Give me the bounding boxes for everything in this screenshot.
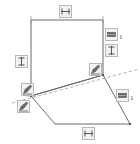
badge-sketch-edit-mid-left[interactable] — [21, 83, 35, 96]
extrude-icon[interactable] — [116, 89, 129, 102]
vertex-point-lower-right[interactable] — [129, 123, 131, 125]
horizontal-dimension-icon[interactable] — [59, 5, 72, 18]
badge-subscript: 1 — [119, 34, 123, 41]
cad-sketch-canvas[interactable]: 1 — [0, 0, 140, 144]
badge-extrude-right-1[interactable]: 1 — [105, 28, 123, 41]
badge-horizontal-dimension-top[interactable] — [59, 5, 73, 18]
vertical-dimension-icon[interactable] — [15, 55, 28, 68]
badge-sketch-edit-lower-left[interactable] — [17, 100, 31, 113]
badge-vertical-dimension-left[interactable] — [15, 55, 29, 68]
pencil-edit-icon[interactable] — [89, 63, 102, 76]
horizontal-dimension-icon[interactable] — [82, 127, 95, 140]
vertical-dimension-icon[interactable] — [105, 44, 118, 57]
badge-extrude-lower-right-1[interactable]: 1 — [116, 89, 134, 102]
vertical-rectangle-face[interactable] — [31, 20, 103, 96]
badge-horizontal-dimension-bottom[interactable] — [82, 127, 96, 140]
extrude-icon[interactable] — [105, 28, 118, 41]
pencil-edit-icon[interactable] — [17, 100, 30, 113]
pencil-edit-icon[interactable] — [21, 83, 34, 96]
badge-sketch-edit-mid-right[interactable] — [89, 63, 103, 76]
badge-vertical-dimension-right[interactable] — [105, 44, 119, 57]
badge-subscript: 1 — [130, 95, 134, 102]
sketch-geometry — [0, 0, 140, 144]
